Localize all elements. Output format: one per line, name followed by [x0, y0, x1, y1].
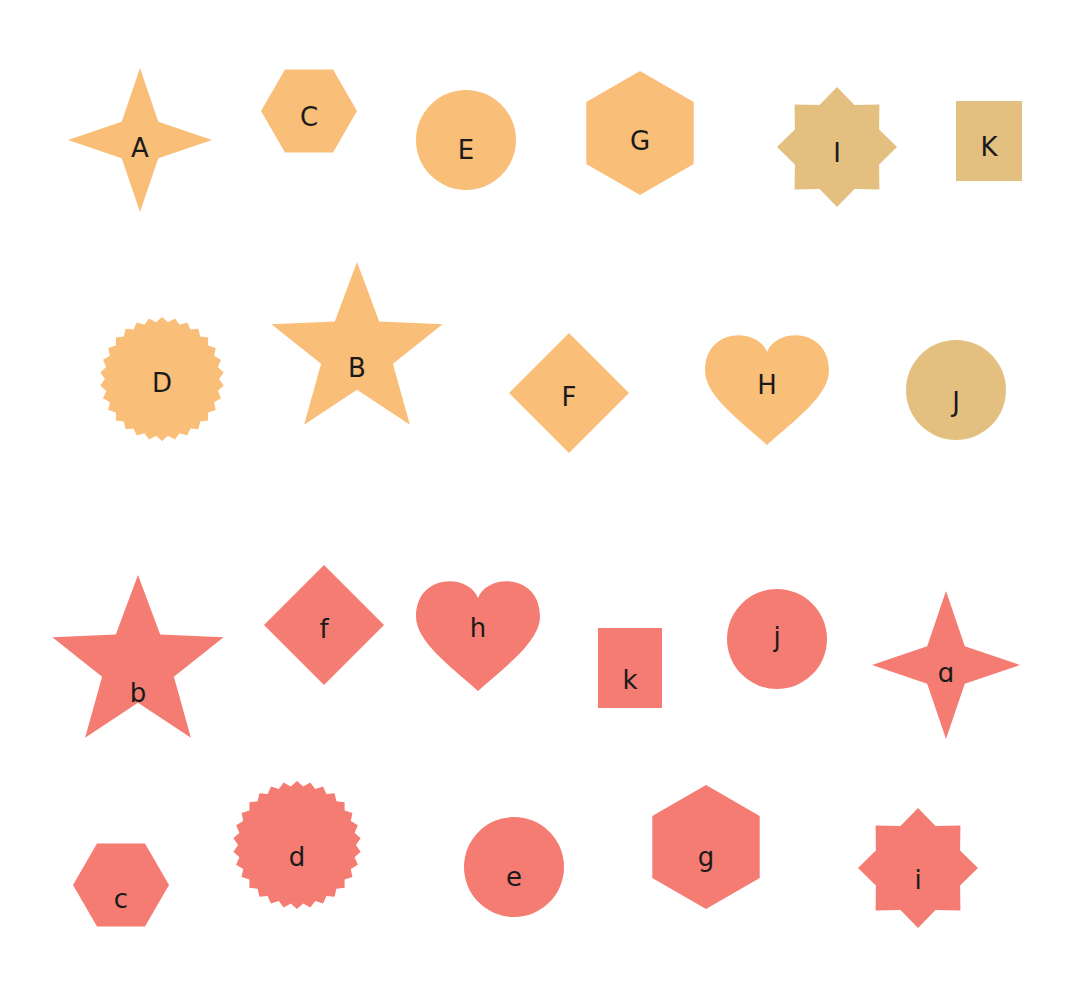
shape-card-diamond: f: [264, 565, 384, 685]
lowercase-shapes-group: bfhkjɑcdegi: [52, 565, 1020, 928]
shape-card-circle: J: [906, 340, 1006, 440]
shape-card-diamond: F: [509, 333, 629, 453]
shape-letter-label: B: [348, 353, 366, 383]
shape-letter-label: E: [458, 135, 474, 165]
shape-letter-label: f: [319, 614, 329, 644]
shape-letter-label: J: [950, 387, 960, 417]
shape-letter-label: b: [130, 678, 147, 708]
shape-card-four-point-star: A: [68, 68, 212, 212]
shape-card-rectangle: k: [598, 628, 662, 708]
five-point-star-shape: [52, 575, 223, 738]
five-point-star-shape: [271, 262, 442, 425]
shape-letter-label: K: [980, 132, 998, 162]
shape-letter-label: I: [833, 138, 841, 168]
shape-letter-label: e: [506, 862, 522, 892]
shape-card-seal: d: [233, 781, 360, 909]
shape-letter-label: d: [289, 842, 306, 872]
shape-card-circle: e: [464, 817, 564, 917]
uppercase-shapes-group: ACEGIKDBFHJ: [68, 68, 1022, 453]
shape-card-hexagon-pointy: G: [586, 71, 693, 195]
shape-card-four-point-star: ɑ: [872, 591, 1020, 739]
shape-letter-label: c: [114, 884, 128, 914]
shape-card-hexagon-flat: c: [73, 843, 169, 926]
shape-letter-label: G: [630, 126, 650, 156]
shape-letter-label: k: [622, 665, 637, 695]
shape-card-heart: h: [416, 581, 540, 691]
shape-letter-label: j: [772, 622, 780, 652]
shape-letter-label: H: [757, 370, 777, 400]
shape-letter-label: C: [300, 102, 318, 132]
shape-letter-label: h: [470, 613, 486, 643]
shape-card-rectangle: K: [956, 101, 1022, 181]
shape-card-hexagon-flat: C: [261, 69, 357, 152]
shape-card-circle: j: [727, 589, 827, 689]
shape-card-hexagon-pointy: g: [652, 785, 759, 909]
shape-card-eight-point-star: i: [858, 808, 978, 928]
shape-letter-label: g: [698, 842, 715, 872]
shape-letter-label: F: [562, 382, 577, 412]
shape-letter-label: A: [131, 133, 149, 163]
shape-card-five-point-star: b: [52, 575, 223, 738]
shape-letter-label: D: [152, 368, 172, 398]
shape-card-five-point-star: B: [271, 262, 442, 425]
shape-card-eight-point-star: I: [777, 87, 897, 207]
shape-card-circle: E: [416, 90, 516, 190]
shape-letter-label: ɑ: [938, 658, 955, 688]
shape-card-heart: H: [705, 335, 829, 445]
shape-card-seal: D: [100, 317, 223, 441]
shape-letter-label: i: [914, 865, 921, 895]
letter-shapes-canvas: ACEGIKDBFHJbfhkjɑcdegi: [0, 0, 1079, 992]
